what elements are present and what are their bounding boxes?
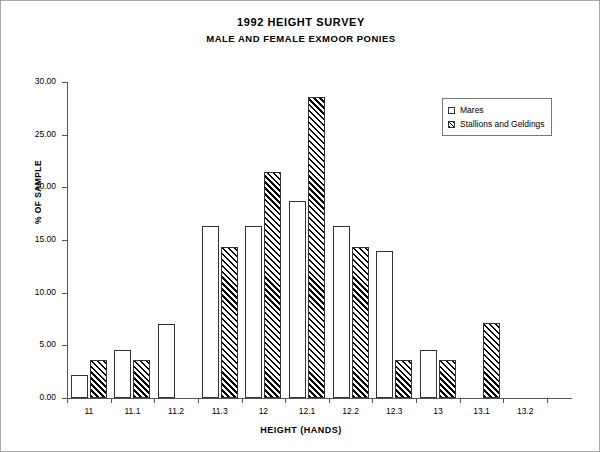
chart-legend: MaresStallions and Geldings bbox=[442, 98, 552, 136]
x-tick-mark bbox=[285, 398, 286, 403]
title-block: 1992 HEIGHT SURVEY MALE AND FEMALE EXMOO… bbox=[1, 15, 600, 46]
x-tick-label: 12 bbox=[259, 406, 268, 416]
x-tick-mark bbox=[460, 398, 461, 403]
bar bbox=[289, 201, 306, 398]
y-tick-label: 20.00 bbox=[35, 181, 56, 191]
y-tick-label: 30.00 bbox=[35, 76, 56, 86]
bar bbox=[114, 350, 131, 398]
legend-label: Stallions and Geldings bbox=[460, 119, 545, 129]
x-tick-mark bbox=[547, 398, 548, 403]
legend-item: Stallions and Geldings bbox=[448, 117, 545, 131]
x-tick-mark bbox=[154, 398, 155, 403]
x-tick-mark bbox=[503, 398, 504, 403]
x-tick-label: 11.2 bbox=[168, 406, 184, 416]
y-tick-label: 15.00 bbox=[35, 234, 56, 244]
x-tick-label: 12.2 bbox=[342, 406, 359, 416]
y-tick-label: 25.00 bbox=[35, 129, 56, 139]
y-tick-label: 5.00 bbox=[39, 339, 56, 349]
x-tick-mark bbox=[329, 398, 330, 403]
legend-swatch bbox=[448, 121, 455, 128]
bar bbox=[376, 251, 393, 398]
y-tick-label: 10.00 bbox=[35, 287, 56, 297]
legend-item: Mares bbox=[448, 103, 545, 117]
x-tick-mark bbox=[67, 398, 68, 403]
bar bbox=[439, 360, 456, 398]
x-tick-mark bbox=[111, 398, 112, 403]
x-tick-label: 11.3 bbox=[212, 406, 228, 416]
bar bbox=[333, 226, 350, 398]
chart-title: 1992 HEIGHT SURVEY bbox=[1, 15, 600, 29]
bar bbox=[395, 360, 412, 398]
x-tick-label: 12.1 bbox=[299, 406, 316, 416]
bar bbox=[90, 360, 107, 398]
legend-swatch bbox=[448, 107, 455, 114]
bar bbox=[71, 375, 88, 398]
bar bbox=[133, 360, 150, 398]
x-tick-label: 12.3 bbox=[386, 406, 403, 416]
x-tick-label: 13 bbox=[433, 406, 442, 416]
x-tick-mark bbox=[416, 398, 417, 403]
x-tick-mark bbox=[198, 398, 199, 403]
bar bbox=[221, 247, 238, 398]
chart-subtitle: MALE AND FEMALE EXMOOR PONIES bbox=[1, 32, 600, 46]
bar bbox=[483, 323, 500, 398]
x-tick-mark bbox=[242, 398, 243, 403]
bar bbox=[264, 172, 281, 398]
x-tick-label: 11.1 bbox=[124, 406, 140, 416]
x-tick-label: 13.2 bbox=[517, 406, 534, 416]
legend-label: Mares bbox=[460, 105, 484, 115]
bar bbox=[308, 97, 325, 398]
x-axis-line bbox=[67, 398, 572, 399]
chart-page: 1992 HEIGHT SURVEY MALE AND FEMALE EXMOO… bbox=[0, 0, 600, 452]
bar bbox=[420, 350, 437, 398]
x-tick-mark bbox=[372, 398, 373, 403]
x-tick-label: 13.1 bbox=[473, 406, 490, 416]
bar bbox=[245, 226, 262, 398]
y-tick-label: 0.00 bbox=[39, 392, 56, 402]
bar bbox=[352, 247, 369, 398]
x-tick-label: 11 bbox=[84, 406, 93, 416]
x-axis-label: HEIGHT (HANDS) bbox=[1, 425, 600, 435]
bar bbox=[158, 324, 175, 398]
bar bbox=[202, 226, 219, 398]
